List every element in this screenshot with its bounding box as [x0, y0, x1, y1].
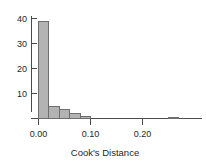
cooks-distance-histogram: 40 30 20 10 0.00 0.10 0.20 Cook's Distan… — [0, 0, 206, 167]
x-tick-label-020: 0.20 — [134, 129, 152, 139]
y-tick-label-20: 20 — [17, 64, 27, 74]
chart-canvas: 40 30 20 10 0.00 0.10 0.20 Cook's Distan… — [0, 0, 206, 167]
histogram-bar — [49, 106, 59, 119]
histogram-bar — [80, 116, 90, 119]
histogram-bar — [39, 21, 49, 119]
histogram-bar — [59, 110, 69, 119]
x-tick-label-000: 0.00 — [30, 129, 48, 139]
histogram-bar — [70, 114, 80, 119]
y-tick-label-40: 40 — [17, 14, 27, 24]
x-tick-label-010: 0.10 — [82, 129, 100, 139]
x-axis-title: Cook's Distance — [71, 147, 139, 158]
histogram-bar — [169, 117, 179, 118]
y-tick-label-10: 10 — [17, 89, 27, 99]
chart-background — [0, 0, 206, 167]
y-tick-label-30: 30 — [17, 39, 27, 49]
